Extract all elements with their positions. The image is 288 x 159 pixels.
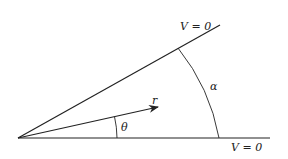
alpha-arc: [178, 48, 219, 138]
theta-arc: [115, 117, 118, 138]
wedge-svg: V = 0 V = 0 r θ α: [0, 0, 288, 159]
upper-boundary-label: V = 0: [180, 20, 211, 33]
upper-boundary-line: [18, 25, 220, 138]
theta-label: θ: [121, 121, 128, 134]
radius-label: r: [152, 94, 158, 107]
lower-boundary-label: V = 0: [231, 141, 262, 154]
wedge-diagram: V = 0 V = 0 r θ α: [0, 0, 288, 159]
radius-vector-arrow: [18, 107, 158, 138]
alpha-label: α: [210, 80, 218, 93]
